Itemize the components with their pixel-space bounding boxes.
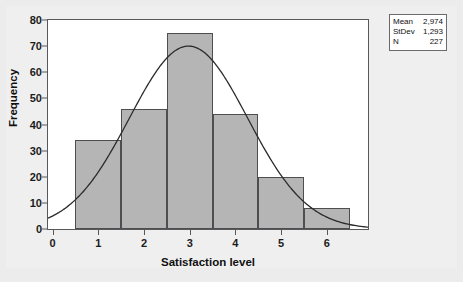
x-tick-label-2: 2 [141, 237, 147, 249]
stats-value: 227 [430, 37, 443, 47]
plot-inner [48, 20, 368, 229]
x-tick-mark-5 [281, 230, 282, 235]
y-tick-label-30: 30 [30, 145, 42, 157]
x-tick-label-4: 4 [232, 237, 238, 249]
x-tick-mark-0 [53, 230, 54, 235]
stats-value: 1,293 [423, 27, 443, 37]
histogram-figure: Frequency 01020304050607080 0123456 Sati… [0, 0, 463, 282]
normal-curve [48, 20, 368, 229]
x-tick-label-5: 5 [278, 237, 284, 249]
y-tick-label-50: 50 [30, 92, 42, 104]
x-axis-title: Satisfaction level [47, 256, 369, 268]
statistics-box: Mean2,974StDev1,293N227 [389, 14, 447, 51]
stats-key: N [393, 37, 399, 47]
x-tick-mark-3 [190, 230, 191, 235]
x-tick-mark-1 [98, 230, 99, 235]
plot-area [47, 19, 369, 230]
x-tick-mark-6 [327, 230, 328, 235]
x-axis-tick-marks [47, 230, 369, 236]
y-tick-label-80: 80 [30, 14, 42, 26]
x-axis-tick-labels: 0123456 [47, 237, 369, 253]
x-tick-label-1: 1 [95, 237, 101, 249]
stats-row: StDev1,293 [393, 27, 443, 37]
x-tick-mark-2 [144, 230, 145, 235]
y-axis-tick-labels: 01020304050607080 [14, 19, 42, 230]
normal-curve-path [48, 46, 368, 227]
stats-key: Mean [393, 17, 413, 27]
y-tick-label-70: 70 [30, 40, 42, 52]
x-tick-label-0: 0 [50, 237, 56, 249]
y-tick-label-10: 10 [30, 197, 42, 209]
y-tick-label-60: 60 [30, 66, 42, 78]
stats-row: N227 [393, 37, 443, 47]
stats-key: StDev [393, 27, 415, 37]
x-tick-label-6: 6 [324, 237, 330, 249]
x-tick-mark-4 [235, 230, 236, 235]
y-tick-label-20: 20 [30, 171, 42, 183]
x-tick-label-3: 3 [187, 237, 193, 249]
stats-value: 2,974 [423, 17, 443, 27]
y-tick-label-40: 40 [30, 119, 42, 131]
stats-row: Mean2,974 [393, 17, 443, 27]
